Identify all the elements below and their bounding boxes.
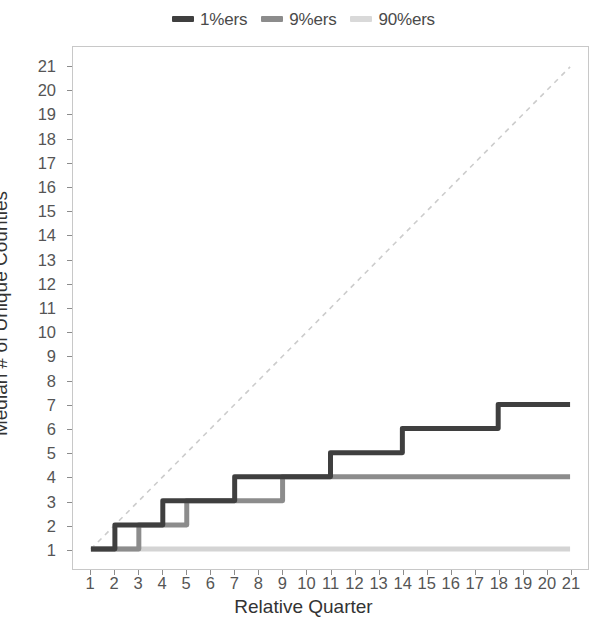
legend-entry-1[interactable]: 1%ers — [172, 11, 247, 28]
y-tick-label: 17 — [38, 153, 56, 172]
chart-figure: 1%ers 9%ers 90%ers Median # of Unique Co… — [0, 0, 607, 627]
y-tick-label: 20 — [38, 81, 56, 100]
y-tick-label: 14 — [38, 226, 56, 245]
y-tick-label: 19 — [38, 105, 56, 124]
y-tick-labels: 123456789101112131415161718192021 — [0, 0, 66, 627]
y-tick-label: 7 — [47, 395, 56, 414]
x-tick-label: 2 — [109, 574, 118, 593]
y-tick-label: 1 — [47, 541, 56, 560]
y-tick-label: 21 — [38, 57, 56, 76]
x-tick-label: 5 — [182, 574, 191, 593]
x-tick-label: 3 — [134, 574, 143, 593]
x-tick-label: 20 — [538, 574, 556, 593]
x-tick-label: 14 — [393, 574, 411, 593]
legend-label-2: 9%ers — [289, 11, 336, 28]
y-tick-label: 2 — [47, 516, 56, 535]
y-tick-label: 6 — [47, 420, 56, 439]
legend-label-3: 90%ers — [378, 11, 434, 28]
x-tick-label: 1 — [85, 574, 94, 593]
x-tick-label: 7 — [230, 574, 239, 593]
legend-swatch-2 — [261, 16, 283, 22]
legend-entry-3[interactable]: 90%ers — [350, 11, 434, 28]
x-tick-label: 12 — [345, 574, 363, 593]
x-tick-label: 4 — [158, 574, 167, 593]
plot-panel — [72, 46, 589, 570]
legend-swatch-3 — [350, 16, 372, 22]
y-tick-label: 10 — [38, 323, 56, 342]
x-tick-label: 15 — [418, 574, 436, 593]
legend-swatch-1 — [172, 16, 194, 22]
y-tick-label: 13 — [38, 250, 56, 269]
y-tick-label: 3 — [47, 492, 56, 511]
x-tick-labels: 123456789101112131415161718192021 — [0, 574, 607, 598]
y-tick-label: 9 — [47, 347, 56, 366]
x-tick-label: 13 — [369, 574, 387, 593]
x-tick-label: 21 — [562, 574, 580, 593]
x-tick-label: 11 — [322, 574, 339, 593]
x-tick-label: 6 — [206, 574, 215, 593]
x-tick-label: 18 — [490, 574, 508, 593]
x-tick-label: 8 — [254, 574, 263, 593]
y-tick-label: 4 — [47, 468, 56, 487]
x-axis-title: Relative Quarter — [0, 596, 607, 618]
y-tick-label: 11 — [39, 299, 56, 318]
y-tick-label: 16 — [38, 178, 56, 197]
x-tick-label: 10 — [297, 574, 315, 593]
y-tick-label: 5 — [47, 444, 56, 463]
x-tick-label: 17 — [466, 574, 484, 593]
x-tick-label: 19 — [514, 574, 532, 593]
y-tick-label: 12 — [38, 274, 56, 293]
x-tick-label: 9 — [278, 574, 287, 593]
legend-label-1: 1%ers — [200, 11, 247, 28]
chart-legend: 1%ers 9%ers 90%ers — [0, 6, 607, 32]
y-tick-label: 15 — [38, 202, 56, 221]
y-tick-label: 18 — [38, 129, 56, 148]
plot-svg — [73, 47, 588, 569]
legend-entry-2[interactable]: 9%ers — [261, 11, 336, 28]
y-tick-label: 8 — [47, 371, 56, 390]
x-tick-label: 16 — [442, 574, 460, 593]
